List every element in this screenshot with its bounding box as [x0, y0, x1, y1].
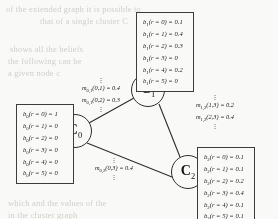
belief-line: b1(r = 0) = 0.1 [143, 17, 188, 29]
message-line: m1,2(1,3) = 0.2 [180, 100, 250, 112]
belief-line: b0(r = 1) = 0 [23, 121, 68, 133]
belief-line: b2(r = 5) = 0.1 [204, 211, 249, 219]
belief-line: b2(r = 2) = 0.2 [204, 176, 249, 188]
belief-line: b2(r = 0) = 0.1 [204, 152, 249, 164]
edge-c1-c2 [159, 104, 180, 157]
belief-line: b0(r = 5) = 0 [23, 168, 68, 180]
belief-line: b1(r = 5) = 0 [143, 76, 188, 88]
belief-line: b2(r = 3) = 0.4 [204, 188, 249, 200]
belief-line: b1(r = 3) = 0 [143, 53, 188, 65]
belief-line: b2(r = 1) = 0.1 [204, 164, 249, 176]
figure-canvas: of the extended graph it is possible to … [0, 0, 278, 219]
message-ellipsis-bottom: ⋮ [79, 175, 149, 180]
cluster-node-c0-subscript: 0 [78, 130, 82, 140]
message-label-c0-c1: ⋮m0,1(0,1) = 0.4m0,1(0,2) = 0.3⋮ [64, 78, 138, 112]
cluster-node-c2-label: C2 [181, 164, 195, 180]
message-line: m0,1(0,1) = 0.4 [64, 83, 138, 95]
belief-line: b2(r = 4) = 0.1 [204, 200, 249, 212]
message-ellipsis-bottom: ⋮ [64, 107, 138, 112]
belief-box-c2: b2(r = 0) = 0.1b2(r = 1) = 0.1b2(r = 2) … [197, 147, 255, 219]
belief-line: b1(r = 4) = 0.2 [143, 65, 188, 77]
message-label-c0-c2: ⋮m0,2(0,3) = 0.4⋮ [79, 158, 149, 180]
belief-box-c1: b1(r = 0) = 0.1b1(r = 1) = 0.4b1(r = 2) … [136, 12, 194, 92]
belief-line: b1(r = 2) = 0.3 [143, 41, 188, 53]
belief-box-c0: b0(r = 0) = 1b0(r = 1) = 0b0(r = 2) = 0b… [16, 104, 74, 184]
belief-line: b0(r = 2) = 0 [23, 133, 68, 145]
belief-line: b0(r = 4) = 0 [23, 157, 68, 169]
belief-line: b0(r = 0) = 1 [23, 109, 68, 121]
cluster-node-c2-subscript: 2 [191, 171, 195, 181]
message-label-c1-c2: ⋮m1,2(1,3) = 0.2m1,2(2,3) = 0.4⋮ [180, 95, 250, 129]
message-ellipsis-bottom: ⋮ [180, 124, 250, 129]
belief-line: b1(r = 1) = 0.4 [143, 29, 188, 41]
belief-line: b0(r = 3) = 0 [23, 145, 68, 157]
